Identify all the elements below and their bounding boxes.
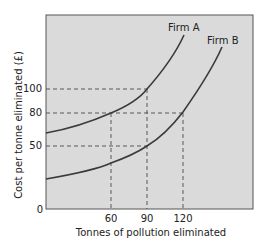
y-axis-label: Cost per tonne eliminated (£)	[13, 51, 24, 199]
x-tick-120: 120	[173, 213, 192, 224]
y-tick-50: 50	[29, 140, 42, 151]
x-axis-label: Tonnes of pollution eliminated	[75, 227, 226, 238]
label-firm-a: Firm A	[168, 22, 200, 33]
x-tick-90: 90	[141, 213, 154, 224]
chart: Firm A Firm B 100 80 50 0 60 90 120 Tonn…	[0, 0, 269, 247]
y-tick-80: 80	[29, 107, 42, 118]
y-tick-0: 0	[37, 204, 43, 215]
x-tick-60: 60	[105, 213, 118, 224]
label-firm-b: Firm B	[207, 35, 239, 46]
y-tick-100: 100	[23, 83, 42, 94]
